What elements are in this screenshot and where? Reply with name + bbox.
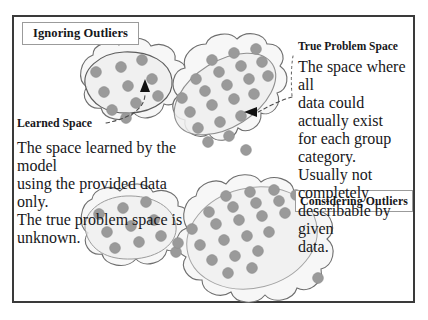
callout-learned-line-1: The space learned by the model: [17, 139, 192, 175]
callout-learned-line-2: using the provided data only.: [17, 175, 192, 211]
callout-true-line-1: The space where all: [298, 58, 416, 94]
callout-true-line-6: data.: [298, 238, 416, 256]
callout-true-line-2: data could actually exist: [298, 94, 416, 130]
callout-true-line-3: for each group category.: [298, 130, 416, 166]
callout-true-line-5: describable by given: [298, 202, 416, 238]
label-ignoring-outliers: Ignoring Outliers: [22, 22, 139, 45]
callout-learned-line-4: unknown.: [17, 229, 192, 247]
callout-learned-space: Learned Space The space learned by the m…: [17, 117, 192, 263]
callout-learned-line-3: The true problem space is: [17, 211, 192, 229]
figure-canvas: Ignoring Outliers Considering Outliers T…: [0, 0, 428, 320]
callout-true-heading: True Problem Space: [298, 40, 416, 53]
callout-true-problem-space: True Problem Space The space where all d…: [298, 40, 416, 272]
callout-learned-heading: Learned Space: [17, 117, 192, 130]
callout-true-line-4: Usually not completely: [298, 166, 416, 202]
